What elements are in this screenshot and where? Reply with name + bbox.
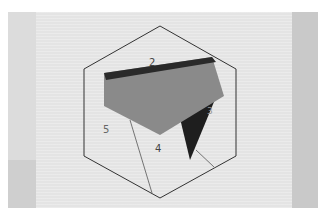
label-5: 5 xyxy=(103,124,109,135)
seam-line xyxy=(130,120,152,193)
label-4: 4 xyxy=(155,143,161,154)
hexagon-template: 2 3 4 5 xyxy=(0,0,325,212)
label-3: 3 xyxy=(207,106,213,116)
label-2: 2 xyxy=(149,57,155,68)
seam-line xyxy=(196,150,214,167)
